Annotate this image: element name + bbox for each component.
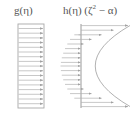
velocity-profile-figure: g(η) h(η) (ζ2 − α): [0, 0, 138, 117]
left-panel-uniform-profile: [18, 24, 44, 108]
right-profile-arrow-group: [61, 26, 129, 107]
profile-drawing-canvas: [0, 0, 138, 117]
parabolic-profile-curve: [95, 26, 130, 107]
right-panel-parabolic-profile: [61, 24, 131, 108]
left-profile-arrow-group: [19, 29, 43, 104]
